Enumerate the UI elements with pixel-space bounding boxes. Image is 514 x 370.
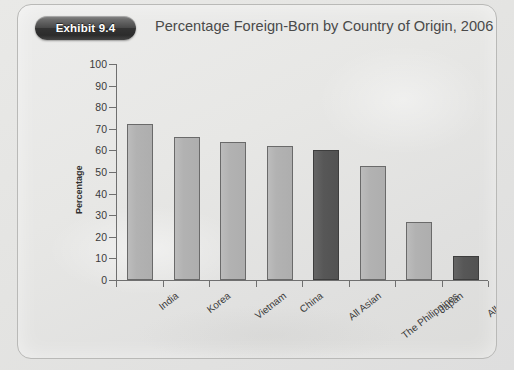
y-axis-tick-label: 30: [95, 209, 107, 221]
x-axis-tick: [256, 281, 257, 287]
x-axis-tick-label: Vietnam: [253, 290, 289, 321]
y-axis-title-label: Percentage: [74, 200, 84, 214]
y-axis-tick-label: 40: [95, 188, 107, 200]
plot-region: 0102030405060708090100 IndiaKoreaVietnam…: [116, 64, 488, 280]
y-axis-tick-label: 100: [89, 58, 107, 70]
x-axis-tick: [395, 281, 396, 287]
bar: [313, 150, 339, 280]
bar: [267, 146, 293, 280]
y-axis-tick: [109, 107, 116, 108]
y-axis-tick-label: 70: [95, 123, 107, 135]
x-axis-tick: [302, 281, 303, 287]
x-axis-tick-label: All U.S.: [485, 290, 497, 319]
bar: [127, 124, 153, 280]
x-axis-tick: [442, 281, 443, 287]
exhibit-header: Exhibit 9.4 Percentage Foreign-Born by C…: [18, 14, 496, 44]
x-axis-tick-label: India: [157, 290, 181, 312]
exhibit-number-badge: Exhibit 9.4: [35, 16, 136, 40]
y-axis-tick-label: 60: [95, 144, 107, 156]
x-axis-tick-label: Korea: [204, 290, 232, 315]
y-axis-tick: [109, 150, 116, 151]
x-axis-tick: [163, 281, 164, 287]
x-axis-tick: [209, 281, 210, 287]
x-axis-tick: [116, 281, 117, 287]
bar: [220, 142, 246, 280]
bar: [174, 137, 200, 280]
y-axis-tick: [109, 258, 116, 259]
y-axis-tick: [109, 172, 116, 173]
exhibit-page: Exhibit 9.4 Percentage Foreign-Born by C…: [0, 0, 514, 370]
y-axis-tick: [109, 64, 116, 65]
bar-chart: Percentage 0102030405060708090100 IndiaK…: [75, 64, 495, 344]
bar: [406, 222, 432, 280]
x-axis-tick: [488, 281, 489, 287]
y-axis-tick-label: 0: [101, 274, 107, 286]
x-axis-tick: [349, 281, 350, 287]
chart-title: Percentage Foreign-Born by Country of Or…: [155, 18, 493, 34]
y-axis-tick: [109, 237, 116, 238]
y-axis-title: Percentage: [74, 142, 84, 156]
bar: [360, 166, 386, 280]
bar: [453, 256, 479, 280]
x-axis-tick-label: Japan: [437, 290, 465, 315]
y-axis-tick-label: 90: [95, 80, 107, 92]
y-axis-tick-label: 20: [95, 231, 107, 243]
y-axis-tick-label: 10: [95, 252, 107, 264]
y-axis-tick-label: 50: [95, 166, 107, 178]
y-axis-tick: [109, 280, 116, 281]
bar-series: [117, 64, 488, 280]
y-axis-tick: [109, 194, 116, 195]
exhibit-number-label: Exhibit 9.4: [56, 22, 116, 34]
y-axis-tick: [109, 129, 116, 130]
x-axis-tick-label: All Asian: [346, 290, 383, 322]
exhibit-panel: Exhibit 9.4 Percentage Foreign-Born by C…: [17, 4, 497, 359]
x-axis-tick-label: China: [297, 290, 324, 315]
y-axis-tick-label: 80: [95, 101, 107, 113]
y-axis-tick: [109, 215, 116, 216]
y-axis-tick: [109, 86, 116, 87]
